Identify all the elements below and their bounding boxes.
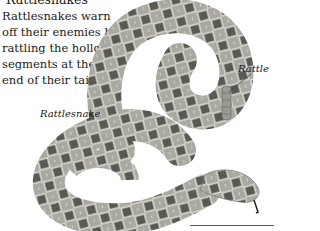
divider-rule	[190, 225, 274, 226]
snake-inner-coil	[70, 159, 130, 180]
snake-tongue	[254, 200, 258, 213]
rattle-label: Rattle	[238, 63, 269, 74]
rattlesnake-label: Rattlesnake	[40, 108, 100, 119]
